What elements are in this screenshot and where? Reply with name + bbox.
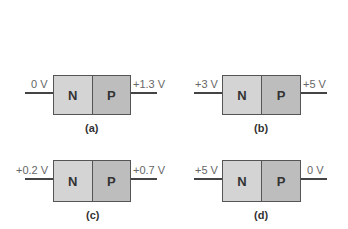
left-voltage-label: +3 V <box>195 78 218 90</box>
p-region: P <box>262 161 300 201</box>
right-lead <box>301 92 327 94</box>
left-lead <box>194 178 222 180</box>
panel-caption: (c) <box>86 209 99 221</box>
left-lead <box>25 92 53 94</box>
p-region: P <box>93 161 131 201</box>
right-voltage-label: +0.7 V <box>133 164 165 176</box>
pn-junction-box: N P <box>222 75 301 115</box>
left-lead <box>194 92 222 94</box>
n-region: N <box>54 76 93 114</box>
n-region: N <box>223 161 262 201</box>
panel-caption: (b) <box>254 122 268 134</box>
pn-junction-box: N P <box>53 75 131 115</box>
right-voltage-label: 0 V <box>307 164 324 176</box>
left-lead <box>25 178 53 180</box>
n-region: N <box>54 161 93 201</box>
left-voltage-label: +0.2 V <box>16 164 48 176</box>
p-region: P <box>93 76 131 114</box>
right-lead <box>131 178 157 180</box>
n-region: N <box>223 76 262 114</box>
right-lead <box>301 178 327 180</box>
right-voltage-label: +1.3 V <box>133 78 165 90</box>
pn-junction-box: N P <box>53 160 131 202</box>
panel-caption: (d) <box>254 209 268 221</box>
p-region: P <box>262 76 300 114</box>
pn-junction-box: N P <box>222 160 301 202</box>
right-lead <box>131 92 157 94</box>
panel-caption: (a) <box>85 122 98 134</box>
right-voltage-label: +5 V <box>303 78 326 90</box>
left-voltage-label: 0 V <box>31 78 48 90</box>
left-voltage-label: +5 V <box>195 164 218 176</box>
